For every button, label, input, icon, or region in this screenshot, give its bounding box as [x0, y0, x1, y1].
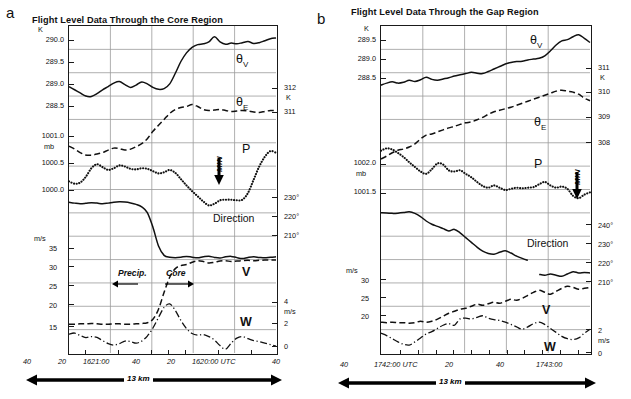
- axis-tick: [272, 88, 277, 89]
- figure-root: a Flight Level Data Through the Core Reg…: [0, 0, 631, 399]
- theta-v-symbol: θ: [236, 52, 243, 66]
- panel-b-label-theta-v: θV: [530, 33, 542, 50]
- axis-tick: [69, 326, 74, 327]
- panel-b-left-tick-6: 25: [326, 295, 369, 302]
- axis-tick: [272, 216, 277, 217]
- panel-b-right-tick-4: 240°: [598, 222, 613, 229]
- panel-a-xtick-4: 20: [167, 357, 175, 366]
- axis-tick: [69, 266, 74, 267]
- panel-a: a Flight Level Data Through the Core Reg…: [0, 0, 312, 399]
- panel-a-left-tick-5: 1000.5: [14, 159, 64, 166]
- axis-tick: [69, 106, 74, 107]
- panel-b-left-tick-5: 30: [326, 277, 369, 284]
- panel-a-xtick-0: 40: [23, 357, 31, 366]
- panel-b-min-arrow-icon: [569, 172, 585, 200]
- axis-tick: [185, 350, 186, 354]
- axis-tick: [381, 279, 386, 280]
- panel-a-right-tick-7: 0: [284, 343, 288, 350]
- axis-tick: [586, 329, 591, 330]
- panel-b-label-wind-speed: V: [542, 303, 550, 317]
- panel-a-left-tick-11: 15: [14, 324, 57, 331]
- series-θE: [381, 90, 590, 159]
- axis-tick: [578, 350, 579, 354]
- panel-a-xtick-2: 1621:00: [83, 357, 109, 366]
- panel-b-right-tick-1: 310: [598, 88, 610, 95]
- panel-b-left-tick-1: 289.0: [326, 55, 376, 62]
- panel-b-label-vertical-velocity: W: [544, 340, 556, 354]
- panel-b-left-unit-ms: m/s: [346, 267, 358, 274]
- panel-a-xtick-6: 40: [272, 357, 280, 366]
- panel-a-right-tick-1: 311: [284, 108, 296, 115]
- panel-a-label-wind-speed: V: [242, 265, 250, 279]
- axis-tick: [272, 346, 277, 347]
- axis-tick: [69, 248, 74, 249]
- panel-b-scale-arrow-icon: [338, 376, 596, 390]
- axis-tick: [69, 304, 74, 305]
- panel-b-left-tick-2: 288.5: [326, 74, 376, 81]
- panel-a-xtick-1: 20: [58, 357, 66, 366]
- panel-b-plot-area: [380, 25, 592, 355]
- panel-b-right-tick-6: 220°: [598, 260, 613, 267]
- series-W: [381, 316, 590, 345]
- series-P: [381, 148, 590, 198]
- panel-b-left-unit-mb: mb: [356, 170, 366, 177]
- axis-tick: [381, 315, 386, 316]
- axis-tick: [69, 136, 74, 137]
- panel-a-left-tick-10: 20: [14, 302, 57, 309]
- panel-a-left-tick-0: 290.0: [14, 36, 64, 43]
- theta-e-subscript: E: [243, 103, 248, 112]
- panel-a-left-tick-4: 1001.0: [14, 132, 64, 139]
- series-V: [381, 286, 590, 323]
- panel-b-right-tick-3: 308: [598, 139, 610, 146]
- panel-a-letter: a: [6, 4, 14, 21]
- panel-a-xtick-3: 40: [132, 357, 140, 366]
- panel-a-label-theta-v: θV: [236, 52, 248, 69]
- axis-tick: [272, 235, 277, 236]
- axis-tick: [586, 352, 591, 353]
- panel-a-min-arrow-icon: [211, 158, 227, 186]
- panel-b-xtick-1: 1742:00 UTC: [374, 360, 417, 369]
- axis-tick: [251, 350, 252, 354]
- axis-tick: [272, 323, 277, 324]
- panel-b-left-tick-7: 20: [326, 313, 369, 320]
- panel-b-xtick-3: 40: [496, 360, 504, 369]
- panel-a-right-tick-0: 312: [284, 84, 296, 91]
- axis-tick: [381, 78, 386, 79]
- panel-b-right-tick-0: 311: [598, 64, 610, 71]
- theta-v-subscript: V: [537, 41, 542, 50]
- axis-tick: [69, 40, 74, 41]
- axis-tick: [381, 40, 386, 41]
- axis-tick: [381, 59, 386, 60]
- axis-tick: [586, 92, 591, 93]
- axis-tick: [69, 62, 74, 63]
- panel-b-label-direction: Direction: [527, 237, 568, 249]
- panel-a-scale-label: 13 km: [124, 374, 153, 383]
- theta-v-subscript: V: [243, 60, 248, 69]
- theta-e-symbol: θ: [236, 95, 243, 109]
- axis-tick: [85, 350, 86, 354]
- panel-a-curves: [69, 26, 276, 353]
- grid-lines: [381, 26, 590, 353]
- panel-b-letter: b: [317, 10, 325, 27]
- panel-a-scale-arrow-icon: [26, 373, 282, 387]
- axis-tick: [69, 163, 74, 164]
- panel-a-core-arrow-icon: [163, 279, 195, 289]
- panel-a-left-tick-7: 35: [14, 245, 57, 252]
- panel-a-left-tick-3: 288.5: [14, 102, 64, 109]
- panel-a-right-unit-k: K: [286, 94, 291, 101]
- axis-tick: [69, 84, 74, 85]
- panel-a-label-pressure: P: [242, 142, 250, 156]
- axis-tick: [524, 350, 525, 354]
- panel-b-xtick-4: 1743:00: [536, 360, 562, 369]
- panel-a-xtick-5: 1620:00 UTC: [192, 357, 235, 366]
- axis-tick: [218, 350, 219, 354]
- axis-tick: [436, 350, 437, 354]
- axis-tick: [400, 350, 401, 354]
- panel-b-left-tick-4: 1001.5: [322, 188, 376, 195]
- axis-tick: [381, 193, 386, 194]
- panel-b-curves: [381, 26, 590, 353]
- axis-tick: [586, 281, 591, 282]
- panel-a-label-vertical-velocity: W: [240, 315, 252, 329]
- axis-tick: [586, 224, 591, 225]
- panel-b-xtick-2: 20: [445, 360, 453, 369]
